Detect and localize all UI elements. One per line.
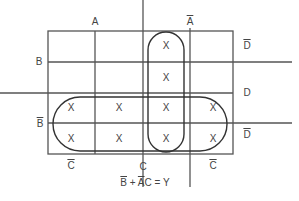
group-loop-b-bar (53, 97, 227, 151)
boolean-expression: B + AC = Y (120, 178, 169, 188)
label-b-bar: B (37, 119, 44, 129)
cell-r3-c2: X (163, 134, 170, 144)
cell-r3-c3: X (210, 134, 217, 144)
expr-equals: = Y (152, 177, 170, 188)
expr-plus: + (127, 177, 138, 188)
label-d: D (243, 88, 250, 98)
kmap-grid (0, 0, 299, 201)
cell-r2-c2: X (163, 103, 170, 113)
cell-r2-c3: X (210, 103, 217, 113)
expr-term1: B (120, 177, 127, 188)
cell-r3-c0: X (68, 134, 75, 144)
cell-r3-c1: X (116, 134, 123, 144)
cell-r2-c1: X (116, 103, 123, 113)
cell-r2-c0: X (68, 103, 75, 113)
label-d-bar-top: D (243, 41, 250, 51)
cell-r1-c2: X (163, 73, 170, 83)
label-c-bar-right: C (209, 161, 216, 171)
cell-r0-c2: X (163, 41, 170, 51)
label-a: A (92, 17, 99, 27)
label-a-bar: A (187, 17, 194, 27)
label-b: B (36, 57, 43, 67)
label-c: C (139, 162, 146, 172)
label-d-bar-bottom: D (243, 130, 250, 140)
label-c-bar-left: C (67, 161, 74, 171)
